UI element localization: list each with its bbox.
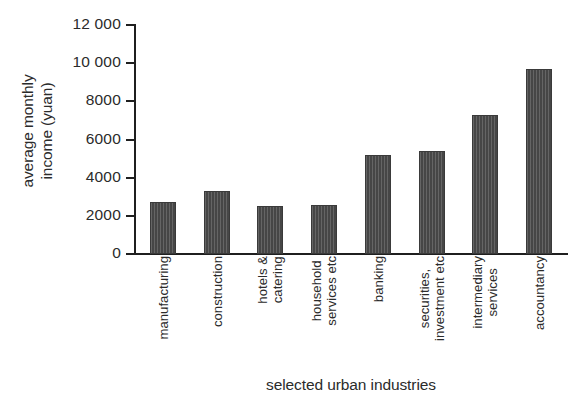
bar-slot: [512, 24, 566, 254]
bar-chart-figure: average monthly income (yuan) 0200040006…: [0, 0, 576, 411]
y-axis-tick: [126, 253, 135, 255]
x-axis-category-label: accountancy: [512, 256, 566, 374]
category-label-line: services etc: [324, 256, 339, 326]
bar-slot: [405, 24, 459, 254]
x-axis-category-label: intermediaryservices: [459, 256, 513, 374]
category-label-line: household: [309, 256, 324, 326]
bar: [204, 191, 230, 254]
y-axis-title-line-1: average monthly: [18, 74, 37, 187]
y-axis-tick: [126, 24, 135, 26]
y-axis-tick-label: 4000: [86, 169, 121, 185]
category-label-line: accountancy: [532, 256, 547, 330]
bar-slot: [190, 24, 244, 254]
y-axis-tick: [126, 62, 135, 64]
y-axis-tick-label: 12 000: [72, 16, 121, 32]
y-axis-title: average monthly income (yuan): [2, 0, 72, 262]
bar-slot: [297, 24, 351, 254]
category-label-line: banking: [370, 256, 385, 302]
y-axis-tick-label: 10 000: [72, 54, 121, 70]
category-label-line: manufacturing: [155, 256, 170, 340]
bar-series: [136, 24, 566, 254]
y-axis-tick-label: 0: [112, 245, 121, 261]
bar-slot: [136, 24, 190, 254]
category-label-line: hotels &: [255, 256, 270, 304]
y-axis-tick-label: 8000: [86, 92, 121, 108]
x-axis-category-label: banking: [351, 256, 405, 374]
category-label-line: catering: [270, 256, 285, 304]
x-axis-title: selected urban industries: [134, 376, 568, 394]
bar: [311, 205, 337, 254]
category-label-line: intermediary: [470, 256, 485, 329]
y-axis-tick: [126, 139, 135, 141]
bar: [526, 69, 552, 254]
x-axis-category-label: construction: [190, 256, 244, 374]
y-axis-title-line-2: income (yuan): [37, 74, 56, 187]
x-axis-category-label: hotels &catering: [244, 256, 298, 374]
category-label-line: construction: [209, 256, 224, 327]
bar-slot: [244, 24, 298, 254]
y-axis-tick: [126, 177, 135, 179]
bar-slot: [351, 24, 405, 254]
x-axis-category-label: securities,investment etc: [405, 256, 459, 374]
bar: [365, 155, 391, 254]
category-label-line: investment etc: [432, 256, 447, 341]
y-axis-tick: [126, 100, 135, 102]
bar: [472, 115, 498, 254]
category-label-line: securities,: [417, 256, 432, 341]
x-axis-category-label: manufacturing: [136, 256, 190, 374]
bar: [419, 151, 445, 254]
y-axis-tick: [126, 215, 135, 217]
category-label-line: services: [485, 256, 500, 329]
bar: [150, 202, 176, 254]
y-axis-tick-label: 6000: [86, 131, 121, 147]
bar: [257, 206, 283, 254]
x-axis-category-label: householdservices etc: [297, 256, 351, 374]
x-axis-category-labels: manufacturingconstructionhotels &caterin…: [136, 256, 566, 374]
bar-slot: [459, 24, 513, 254]
y-axis-tick-label: 2000: [86, 207, 121, 223]
